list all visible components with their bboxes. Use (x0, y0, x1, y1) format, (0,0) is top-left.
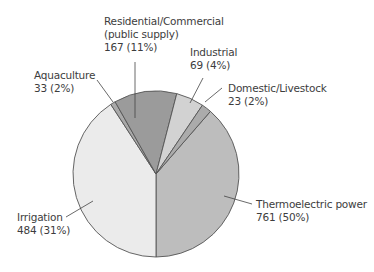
label-aquaculture-value: 33 (2%) (34, 82, 95, 95)
label-domestic-value: 23 (2%) (228, 95, 327, 108)
leader-industrial (190, 78, 203, 103)
label-residential-sub: (public supply) (104, 28, 224, 41)
leader-domestic (205, 88, 222, 102)
label-thermoelectric-value: 761 (50%) (256, 211, 367, 224)
label-domestic-name: Domestic/Livestock (228, 82, 327, 95)
label-irrigation-name: Irrigation (17, 211, 70, 224)
label-irrigation-value: 484 (31%) (17, 224, 70, 237)
label-irrigation: Irrigation 484 (31%) (17, 211, 70, 237)
label-thermoelectric: Thermoelectric power 761 (50%) (256, 198, 367, 224)
label-industrial-value: 69 (4%) (190, 59, 237, 72)
label-residential-name: Residential/Commercial (104, 15, 224, 28)
label-industrial-name: Industrial (190, 46, 237, 59)
label-industrial: Industrial 69 (4%) (190, 46, 237, 72)
label-aquaculture: Aquaculture 33 (2%) (34, 69, 95, 95)
label-thermoelectric-name: Thermoelectric power (256, 198, 367, 211)
label-aquaculture-name: Aquaculture (34, 69, 95, 82)
leader-aquaculture (97, 80, 113, 102)
label-domestic: Domestic/Livestock 23 (2%) (228, 82, 327, 108)
